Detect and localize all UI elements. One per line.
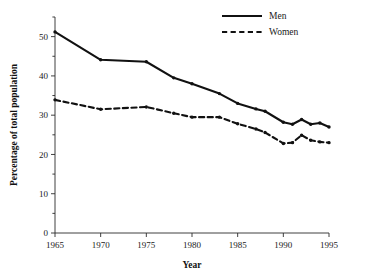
data-point-men xyxy=(263,110,266,113)
x-tick-label: 1990 xyxy=(274,240,293,250)
data-point-women xyxy=(282,142,285,145)
x-axis-title: Year xyxy=(183,260,203,270)
data-point-men xyxy=(145,60,148,63)
data-point-men xyxy=(327,125,330,128)
x-tick-label: 1995 xyxy=(320,240,339,250)
data-point-men xyxy=(291,123,294,126)
data-point-women xyxy=(145,105,148,108)
x-tick-label: 1970 xyxy=(92,240,111,250)
data-point-men xyxy=(190,82,193,85)
legend-label-women: Women xyxy=(269,27,299,37)
x-tick-label: 1985 xyxy=(229,240,248,250)
data-point-men xyxy=(318,121,321,124)
y-tick-label: 30 xyxy=(39,110,49,120)
data-point-men xyxy=(53,30,56,33)
y-axis-title: Percentage of total population xyxy=(9,63,19,186)
y-tick-label: 50 xyxy=(39,32,49,42)
data-point-women xyxy=(291,141,294,144)
data-point-women xyxy=(53,98,56,101)
data-point-women xyxy=(172,112,175,115)
data-point-women xyxy=(218,115,221,118)
data-point-men xyxy=(172,76,175,79)
data-point-women xyxy=(254,127,257,130)
data-point-men xyxy=(282,121,285,124)
chart-legend: MenWomen xyxy=(222,11,299,37)
legend-label-men: Men xyxy=(269,11,287,21)
y-axis: 01020304050 xyxy=(39,17,55,238)
data-point-women xyxy=(318,140,321,143)
series-line-men xyxy=(55,32,329,127)
y-tick-label: 40 xyxy=(39,71,49,81)
data-point-women xyxy=(99,108,102,111)
data-point-men xyxy=(309,123,312,126)
chart-container: 01020304050 1965197019751980198519901995… xyxy=(0,0,365,280)
line-chart-figure: 01020304050 1965197019751980198519901995… xyxy=(0,0,365,280)
data-point-women xyxy=(327,141,330,144)
y-tick-label: 10 xyxy=(39,189,49,199)
data-point-men xyxy=(218,92,221,95)
data-point-men xyxy=(236,102,239,105)
data-point-men xyxy=(99,58,102,61)
x-tick-label: 1965 xyxy=(46,240,65,250)
series-line-women xyxy=(55,100,329,144)
data-point-women xyxy=(263,131,266,134)
data-point-men xyxy=(300,118,303,121)
data-point-women xyxy=(236,122,239,125)
series-layer xyxy=(53,30,330,145)
y-tick-label: 20 xyxy=(39,150,49,160)
x-tick-label: 1980 xyxy=(183,240,202,250)
data-point-women xyxy=(300,134,303,137)
y-tick-label: 0 xyxy=(44,228,49,238)
x-tick-label: 1975 xyxy=(137,240,156,250)
x-axis: 1965197019751980198519901995 xyxy=(46,233,339,250)
data-point-women xyxy=(309,139,312,142)
data-point-women xyxy=(190,115,193,118)
data-point-men xyxy=(254,107,257,110)
